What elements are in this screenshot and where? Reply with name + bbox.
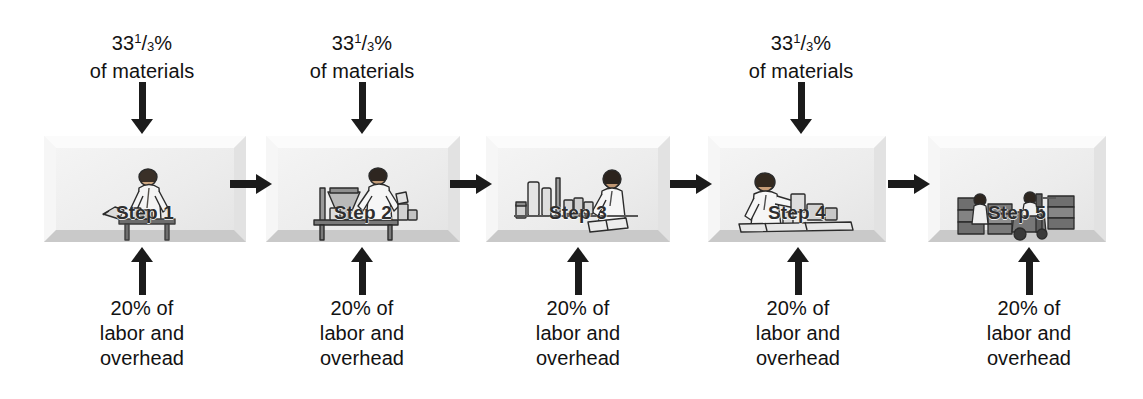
- conversion-line-3: overhead: [57, 346, 227, 371]
- materials-arrow-step-2: [351, 82, 373, 134]
- materials-arrow-step-4: [790, 82, 812, 134]
- conversion-label-step-5: 20% of labor and overhead: [944, 296, 1114, 371]
- step-label: Step 5: [928, 202, 1106, 224]
- materials-text-line: of materials: [57, 59, 227, 84]
- arrow-shaft: [798, 82, 805, 119]
- conversion-line-1: 20% of: [277, 296, 447, 321]
- materials-text-line: of materials: [716, 59, 886, 84]
- arrow-shaft: [139, 82, 146, 119]
- forklift-warehouse-icon: [928, 140, 1106, 242]
- arrow-shaft: [1026, 261, 1033, 295]
- materials-label-step-4: 331/3% of materials: [716, 26, 886, 84]
- worker-at-bench-icon: [44, 140, 246, 242]
- step-box-5[interactable]: Step 5: [928, 136, 1106, 242]
- step-label: Step 2: [266, 202, 460, 224]
- arrow-head: [351, 247, 373, 262]
- materials-percent-line: 331/3%: [57, 26, 227, 59]
- arrow-shaft: [359, 261, 366, 295]
- conversion-line-1: 20% of: [944, 296, 1114, 321]
- step-box-4[interactable]: Step 4: [708, 136, 886, 242]
- conversion-label-step-3: 20% of labor and overhead: [493, 296, 663, 371]
- arrow-head: [476, 174, 492, 194]
- conversion-line-2: labor and: [713, 321, 883, 346]
- arrow-head: [790, 119, 812, 134]
- conversion-arrow-step-4: [787, 247, 809, 295]
- conversion-line-3: overhead: [713, 346, 883, 371]
- arrow-head: [256, 174, 272, 194]
- arrow-head: [914, 174, 930, 194]
- materials-percent-line: 331/3%: [277, 26, 447, 59]
- arrow-step3-to-step4: [670, 174, 712, 194]
- arrow-shaft: [359, 82, 366, 119]
- worker-packaging-icon: [708, 140, 886, 242]
- conversion-line-1: 20% of: [713, 296, 883, 321]
- arrow-head: [567, 247, 589, 262]
- arrow-shaft: [450, 180, 478, 188]
- arrow-shaft: [670, 180, 698, 188]
- arrow-shaft: [230, 180, 258, 188]
- materials-percent-line: 331/3%: [716, 26, 886, 59]
- materials-arrow-step-1: [131, 82, 153, 134]
- conversion-line-1: 20% of: [493, 296, 663, 321]
- conversion-label-step-2: 20% of labor and overhead: [277, 296, 447, 371]
- arrow-step2-to-step3: [450, 174, 492, 194]
- step-box-1[interactable]: Step 1: [44, 136, 246, 242]
- step-box-2[interactable]: Step 2: [266, 136, 460, 242]
- step-label: Step 3: [486, 202, 670, 224]
- conversion-arrow-step-5: [1018, 247, 1040, 295]
- arrow-shaft: [795, 261, 802, 295]
- conversion-line-3: overhead: [944, 346, 1114, 371]
- arrow-head: [696, 174, 712, 194]
- arrow-head: [1018, 247, 1040, 262]
- conversion-arrow-step-2: [351, 247, 373, 295]
- materials-label-step-1: 331/3% of materials: [57, 26, 227, 84]
- conversion-line-2: labor and: [493, 321, 663, 346]
- conversion-arrow-step-3: [567, 247, 589, 295]
- conversion-line-1: 20% of: [57, 296, 227, 321]
- arrow-shaft: [575, 261, 582, 295]
- conversion-label-step-4: 20% of labor and overhead: [713, 296, 883, 371]
- arrow-step1-to-step2: [230, 174, 272, 194]
- arrow-head: [787, 247, 809, 262]
- conversion-line-2: labor and: [277, 321, 447, 346]
- step-box-3[interactable]: Step 3: [486, 136, 670, 242]
- conversion-line-3: overhead: [277, 346, 447, 371]
- process-flow-diagram: 331/3% of materials 331/3% of materials …: [0, 0, 1143, 399]
- inspector-with-jars-icon: [486, 140, 670, 242]
- step-label: Step 1: [44, 202, 246, 224]
- conversion-line-2: labor and: [944, 321, 1114, 346]
- materials-label-step-2: 331/3% of materials: [277, 26, 447, 84]
- conversion-line-3: overhead: [493, 346, 663, 371]
- arrow-head: [131, 247, 153, 262]
- conversion-label-step-1: 20% of labor and overhead: [57, 296, 227, 371]
- step-label: Step 4: [708, 202, 886, 224]
- arrow-step4-to-step5: [888, 174, 930, 194]
- arrow-shaft: [139, 261, 146, 295]
- arrow-head: [351, 119, 373, 134]
- arrow-shaft: [888, 180, 916, 188]
- materials-text-line: of materials: [277, 59, 447, 84]
- worker-mixing-vat-icon: [266, 140, 460, 242]
- conversion-arrow-step-1: [131, 247, 153, 295]
- conversion-line-2: labor and: [57, 321, 227, 346]
- arrow-head: [131, 119, 153, 134]
